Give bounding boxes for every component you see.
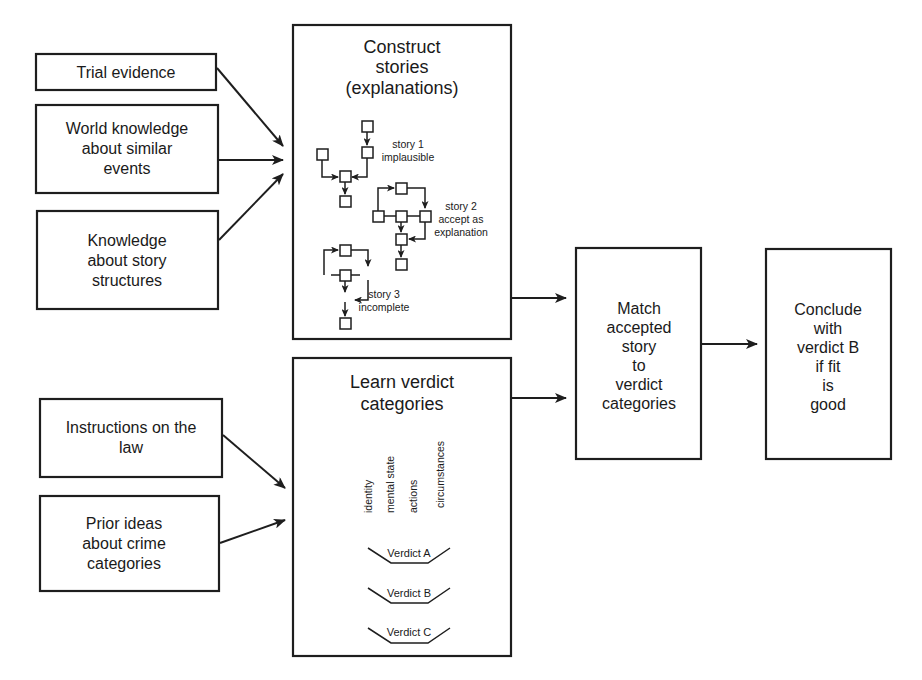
- instructions-line-1: Instructions on the: [66, 419, 197, 436]
- story-2-status-1: accept as: [439, 213, 484, 225]
- construct-title-2: stories: [375, 57, 428, 77]
- learn-verdict-box: Learn verdict categories identity mental…: [293, 358, 511, 656]
- construct-title-1: Construct: [363, 37, 440, 57]
- attribute-identity: identity: [362, 479, 374, 513]
- conclude-line-5: is: [822, 377, 834, 394]
- world-knowledge-line-3: events: [103, 160, 150, 177]
- conclude-line-3: verdict B: [797, 339, 859, 356]
- verdict-a-label: Verdict A: [387, 547, 431, 559]
- story-1-status: implausible: [382, 151, 435, 163]
- prior-ideas-line-2: about crime: [82, 535, 166, 552]
- trial-evidence-label: Trial evidence: [76, 64, 175, 81]
- learn-title-1: Learn verdict: [350, 372, 454, 392]
- arrow-instructions-to-learn: [223, 435, 285, 488]
- input-box-trial-evidence: Trial evidence: [36, 54, 216, 90]
- conclude-line-6: good: [810, 396, 846, 413]
- verdict-c-label: Verdict C: [387, 626, 432, 638]
- prior-ideas-line-1: Prior ideas: [86, 515, 162, 532]
- story-3-status: incomplete: [359, 301, 410, 313]
- story-model-diagram: Trial evidence World knowledge about sim…: [0, 0, 922, 680]
- conclude-line-2: with: [813, 320, 842, 337]
- input-box-world-knowledge: World knowledge about similar events: [36, 105, 218, 193]
- story-2-status-2: explanation: [434, 226, 488, 238]
- story-3-name: story 3: [368, 288, 400, 300]
- match-line-5: verdict: [615, 376, 663, 393]
- match-line-6: categories: [602, 395, 676, 412]
- arrow-structures-to-construct: [219, 174, 283, 240]
- attribute-circumstances: circumstances: [434, 441, 446, 508]
- world-knowledge-line-2: about similar: [82, 140, 173, 157]
- match-line-4: to: [632, 357, 645, 374]
- input-box-instructions-law: Instructions on the law: [40, 399, 222, 477]
- attribute-actions: actions: [407, 480, 419, 513]
- verdict-b-label: Verdict B: [387, 587, 431, 599]
- arrow-trial-to-construct: [217, 68, 283, 146]
- story-2-name: story 2: [445, 200, 477, 212]
- conclude-line-4: if fit: [816, 358, 841, 375]
- input-box-story-structures: Knowledge about story structures: [37, 211, 218, 309]
- construct-stories-box: Construct stories (explanations) story 1…: [293, 25, 511, 339]
- learn-title-2: categories: [360, 394, 443, 414]
- match-box: Match accepted story to verdict categori…: [576, 248, 701, 459]
- story-1-name: story 1: [392, 138, 424, 150]
- arrow-prior-to-learn: [220, 520, 285, 543]
- instructions-line-2: law: [119, 439, 143, 456]
- match-line-1: Match: [617, 300, 661, 317]
- story-structures-line-1: Knowledge: [87, 232, 166, 249]
- match-line-3: story: [622, 338, 657, 355]
- world-knowledge-line-1: World knowledge: [66, 120, 189, 137]
- story-structures-line-3: structures: [92, 272, 162, 289]
- input-box-prior-ideas: Prior ideas about crime categories: [40, 496, 219, 591]
- story-structures-line-2: about story: [87, 252, 166, 269]
- match-line-2: accepted: [607, 319, 672, 336]
- conclude-line-1: Conclude: [794, 301, 862, 318]
- attribute-mental-state: mental state: [384, 456, 396, 513]
- prior-ideas-line-3: categories: [87, 555, 161, 572]
- construct-title-3: (explanations): [345, 78, 458, 98]
- conclude-box: Conclude with verdict B if fit is good: [766, 249, 891, 459]
